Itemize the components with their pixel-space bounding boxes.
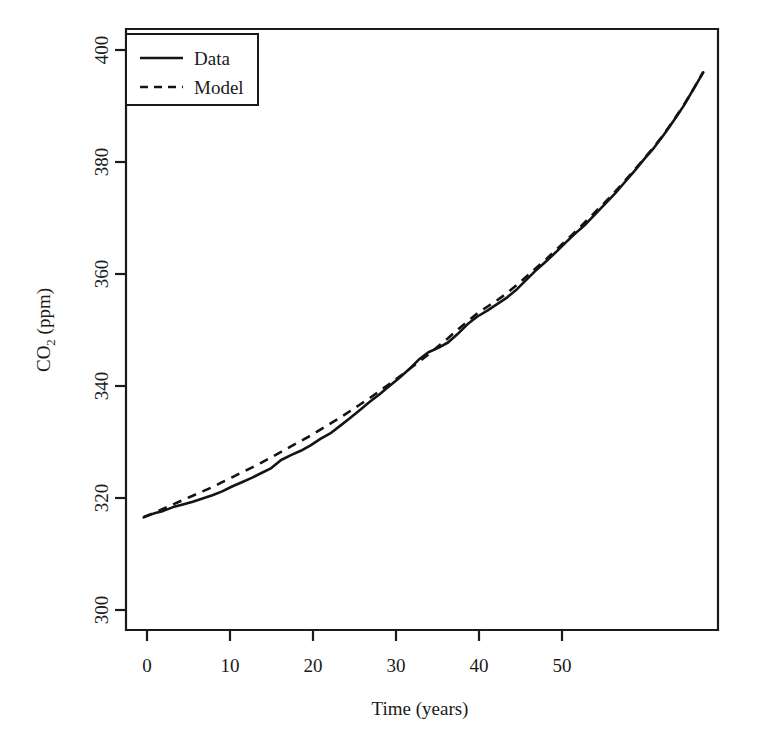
x-tick-label: 0	[142, 655, 152, 676]
y-tick-label: 340	[91, 372, 112, 401]
y-tick-label: 320	[91, 484, 112, 513]
y-tick-label: 400	[91, 36, 112, 65]
y-axis-title-main: CO	[33, 346, 54, 372]
series-line-model	[144, 72, 704, 517]
x-tick-label: 50	[553, 655, 572, 676]
y-axis-tick-labels: 400 380 360 340 320 300	[91, 36, 112, 625]
x-axis-title-label: Time (years)	[372, 698, 469, 720]
legend-label-data: Data	[194, 48, 230, 69]
legend-label-model: Model	[194, 77, 244, 98]
x-tick-label: 40	[470, 655, 489, 676]
x-tick-label: 20	[304, 655, 323, 676]
legend: Data Model	[126, 34, 258, 105]
x-axis-ticks	[147, 630, 562, 641]
svg-text:CO2 (ppm): CO2 (ppm)	[33, 288, 58, 372]
y-axis-title: CO2 (ppm)	[33, 288, 58, 372]
y-axis-title-units: (ppm)	[33, 288, 55, 339]
y-axis-ticks	[115, 50, 126, 610]
series-group	[144, 72, 704, 518]
y-tick-label: 300	[91, 596, 112, 625]
chart-canvas: 400 380 360 340 320 300 CO2 (ppm) 0 10 2	[0, 0, 757, 756]
y-tick-label: 360	[91, 260, 112, 289]
x-tick-label: 30	[387, 655, 406, 676]
x-tick-label: 10	[221, 655, 240, 676]
plot-frame	[126, 29, 718, 630]
y-tick-label: 380	[91, 148, 112, 177]
co2-chart-figure: 400 380 360 340 320 300 CO2 (ppm) 0 10 2	[0, 0, 757, 756]
x-axis-tick-labels: 0 10 20 30 40 50	[142, 655, 571, 676]
series-line-data	[144, 72, 704, 517]
x-axis-title: Time (years)	[372, 698, 469, 720]
